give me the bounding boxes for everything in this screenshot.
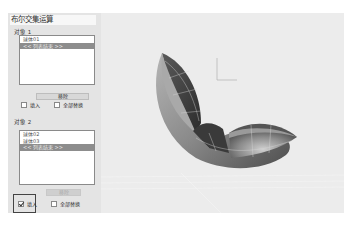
object1-replace-all-checkbox[interactable]: 全部替换 [54, 101, 83, 108]
object2-remove-button[interactable]: 移除 [46, 189, 81, 196]
object1-options: 填入 全部替换 [21, 101, 97, 108]
checkbox-icon[interactable] [21, 102, 27, 108]
object2-options: 填入 全部替换 [18, 200, 94, 207]
object2-replace-all-checkbox[interactable]: 全部替换 [51, 200, 80, 207]
panel-title: 布尔交集运算 [10, 15, 96, 25]
3d-viewport[interactable] [101, 13, 344, 213]
object1-fill-checkbox[interactable]: 填入 [21, 101, 40, 108]
sphere-intersection-model [101, 13, 344, 213]
checkbox-checked-icon[interactable] [18, 201, 24, 207]
app-frame: 布尔交集运算 对象 1 球体01 << 列表结束 >> 移除 填入 全部替换 对… [8, 13, 344, 213]
object1-remove-button[interactable]: 移除 [36, 93, 89, 100]
object2-label: 对象 2 [14, 118, 31, 126]
checkbox-icon[interactable] [51, 201, 57, 207]
list-item[interactable]: << 列表结束 >> [20, 144, 94, 151]
xy-axis-icon [217, 58, 237, 80]
object2-listbox[interactable]: 球体02 球体03 << 列表结束 >> [19, 130, 95, 185]
list-item[interactable]: << 列表结束 >> [20, 43, 94, 50]
object1-listbox[interactable]: 球体01 << 列表结束 >> [19, 35, 95, 85]
checkbox-icon[interactable] [54, 102, 60, 108]
object2-fill-checkbox[interactable]: 填入 [18, 200, 37, 207]
boolean-intersection-panel: 布尔交集运算 对象 1 球体01 << 列表结束 >> 移除 填入 全部替换 对… [8, 13, 101, 213]
